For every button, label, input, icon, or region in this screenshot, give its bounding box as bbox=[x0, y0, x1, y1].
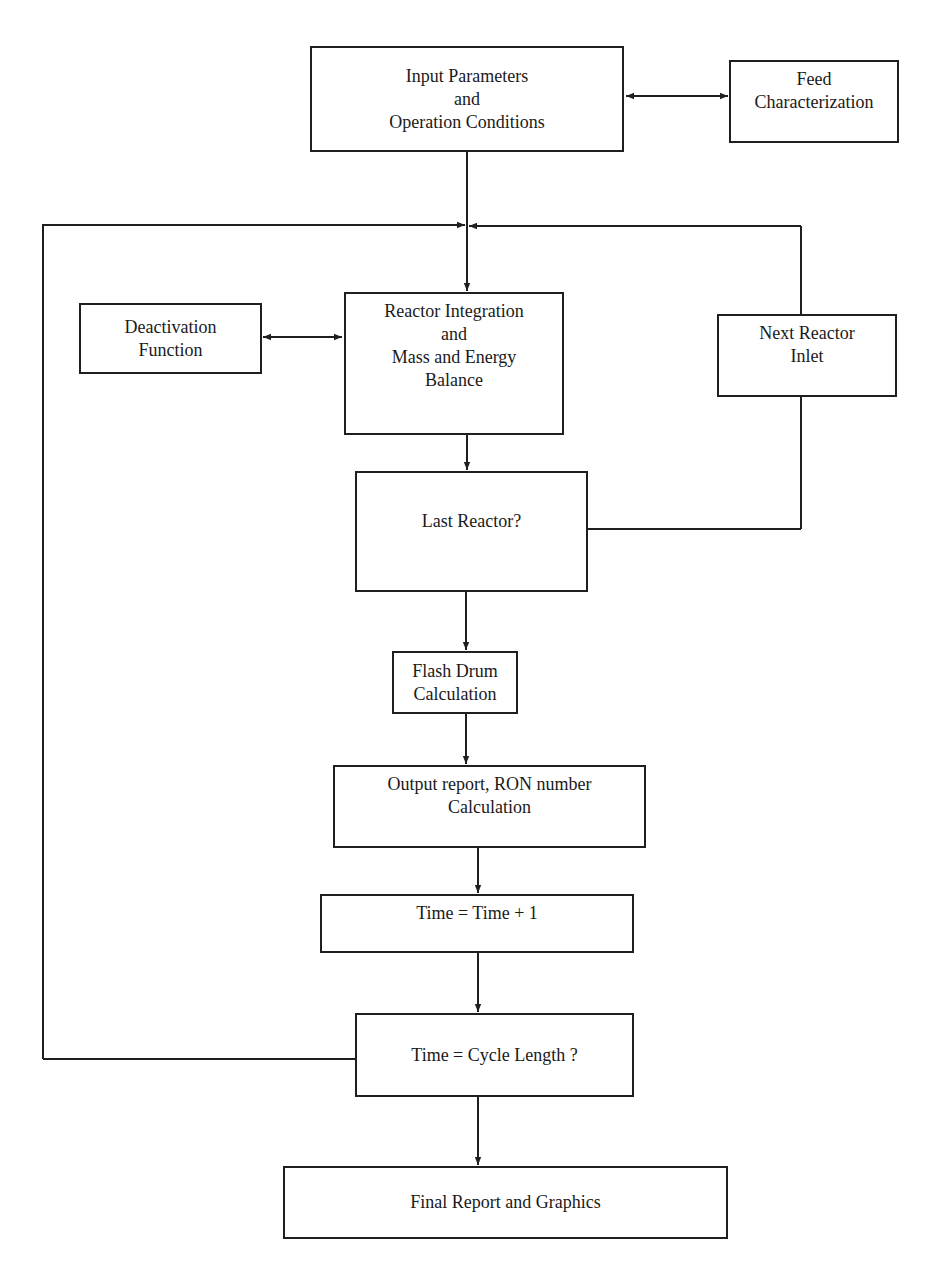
time-increment-box: Time = Time + 1 bbox=[320, 894, 634, 953]
flash-drum-box: Flash Drum Calculation bbox=[392, 651, 518, 714]
input-parameters-box: Input Parameters and Operation Condition… bbox=[310, 46, 624, 152]
node-label: Time = Cycle Length ? bbox=[411, 1044, 577, 1067]
reactor-integration-box: Reactor Integration and Mass and Energy … bbox=[344, 292, 564, 435]
node-label: Feed bbox=[797, 68, 832, 91]
node-label: Balance bbox=[425, 369, 483, 392]
flowchart-canvas: Input Parameters and Operation Condition… bbox=[0, 0, 936, 1273]
node-label: and bbox=[441, 323, 467, 346]
final-report-box: Final Report and Graphics bbox=[283, 1166, 728, 1239]
node-label: Deactivation bbox=[125, 316, 217, 339]
feed-characterization-box: Feed Characterization bbox=[729, 60, 899, 143]
node-label: Mass and Energy bbox=[392, 346, 517, 369]
cycle-length-decision-box: Time = Cycle Length ? bbox=[355, 1013, 634, 1097]
node-label: Input Parameters bbox=[406, 65, 528, 88]
node-label: Output report, RON number bbox=[388, 773, 592, 796]
node-label: Calculation bbox=[414, 683, 497, 706]
node-label: Last Reactor? bbox=[422, 510, 521, 533]
node-label: Characterization bbox=[755, 91, 874, 114]
last-reactor-decision-box: Last Reactor? bbox=[355, 471, 588, 592]
node-label: Function bbox=[138, 339, 202, 362]
deactivation-function-box: Deactivation Function bbox=[79, 303, 262, 374]
node-label: Final Report and Graphics bbox=[410, 1191, 600, 1214]
node-label: Inlet bbox=[791, 345, 824, 368]
output-report-box: Output report, RON number Calculation bbox=[333, 765, 646, 848]
node-label: Reactor Integration bbox=[384, 300, 523, 323]
node-label: Time = Time + 1 bbox=[416, 902, 538, 925]
node-label: and bbox=[454, 88, 480, 111]
node-label: Operation Conditions bbox=[389, 111, 545, 134]
next-reactor-inlet-box: Next Reactor Inlet bbox=[717, 314, 897, 397]
node-label: Calculation bbox=[448, 796, 531, 819]
node-label: Next Reactor bbox=[759, 322, 854, 345]
node-label: Flash Drum bbox=[412, 660, 498, 683]
